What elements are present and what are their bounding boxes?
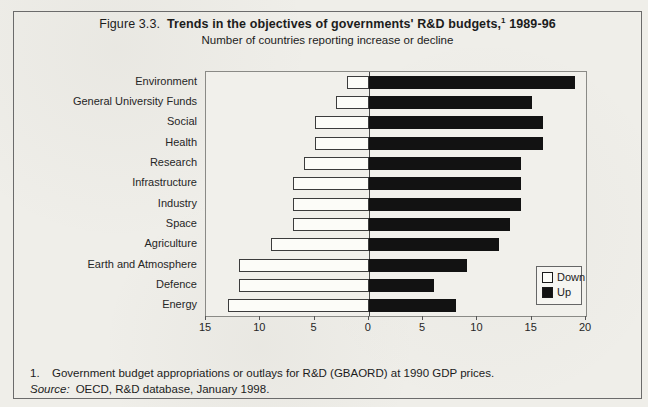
bar-up bbox=[369, 299, 456, 312]
legend-entry-up: Up bbox=[542, 287, 581, 298]
legend: Down Up bbox=[536, 266, 582, 305]
category-label: Space bbox=[20, 217, 197, 230]
bar-up bbox=[369, 137, 543, 150]
x-axis-tick bbox=[585, 316, 586, 320]
category-label: Industry bbox=[20, 197, 197, 210]
footnote-1-text: Government budget appropriations or outl… bbox=[52, 367, 494, 379]
bar-up bbox=[369, 177, 521, 190]
category-label: Defence bbox=[20, 278, 197, 291]
bar-up bbox=[369, 96, 532, 109]
category-label: Infrastructure bbox=[20, 176, 197, 189]
bar-down bbox=[336, 96, 369, 109]
bar-up bbox=[369, 218, 510, 231]
category-label: Environment bbox=[20, 75, 197, 88]
category-label: Agriculture bbox=[20, 237, 197, 250]
x-axis-tick-label: 10 bbox=[244, 321, 274, 333]
bar-up bbox=[369, 157, 521, 170]
footnote-1-number: 1. bbox=[30, 367, 52, 379]
x-axis-tick bbox=[531, 316, 532, 320]
bar-down bbox=[293, 198, 369, 211]
x-axis-tick-label: 5 bbox=[299, 321, 329, 333]
x-axis-tick-label: 5 bbox=[407, 321, 437, 333]
bar-up bbox=[369, 279, 434, 292]
x-axis-tick bbox=[259, 316, 260, 320]
legend-up-swatch bbox=[542, 287, 553, 298]
category-label: Energy bbox=[20, 298, 197, 311]
bar-down bbox=[228, 299, 369, 312]
legend-up-label: Up bbox=[557, 287, 571, 298]
legend-down-label: Down bbox=[557, 272, 585, 283]
source-line: Source:OECD, R&D database, January 1998. bbox=[30, 383, 269, 395]
category-label: Earth and Atmosphere bbox=[20, 258, 197, 271]
x-axis-tick-label: 10 bbox=[461, 321, 491, 333]
footnote-1: 1.Government budget appropriations or ou… bbox=[30, 367, 494, 379]
bar-down bbox=[315, 116, 369, 129]
x-axis-tick-label: 20 bbox=[570, 321, 600, 333]
bar-down bbox=[315, 137, 369, 150]
bar-down bbox=[347, 76, 369, 89]
x-axis-tick-label: 15 bbox=[190, 321, 220, 333]
category-label: General University Funds bbox=[20, 95, 197, 108]
bar-down bbox=[293, 177, 369, 190]
x-axis-tick-label: 0 bbox=[353, 321, 383, 333]
source-label: Source: bbox=[30, 383, 70, 395]
category-label: Health bbox=[20, 136, 197, 149]
x-axis-tick bbox=[314, 316, 315, 320]
category-label: Research bbox=[20, 156, 197, 169]
category-label: Social bbox=[20, 115, 197, 128]
bar-up bbox=[369, 198, 521, 211]
bar-down bbox=[271, 238, 369, 251]
bar-up bbox=[369, 238, 499, 251]
bar-down bbox=[293, 218, 369, 231]
bar-up bbox=[369, 76, 575, 89]
legend-entry-down: Down bbox=[542, 272, 581, 283]
chart-region: Down Up EnvironmentGeneral University Fu… bbox=[0, 0, 648, 407]
x-axis-tick bbox=[368, 316, 369, 320]
x-axis-tick bbox=[422, 316, 423, 320]
bar-down bbox=[304, 157, 369, 170]
bar-up bbox=[369, 259, 467, 272]
bar-up bbox=[369, 116, 543, 129]
legend-down-swatch bbox=[542, 272, 553, 283]
x-axis-tick-label: 15 bbox=[516, 321, 546, 333]
x-axis-tick bbox=[476, 316, 477, 320]
bar-down bbox=[239, 259, 369, 272]
plot-area bbox=[205, 71, 587, 317]
bar-down bbox=[239, 279, 369, 292]
x-axis-tick bbox=[205, 316, 206, 320]
source-text: OECD, R&D database, January 1998. bbox=[76, 383, 270, 395]
